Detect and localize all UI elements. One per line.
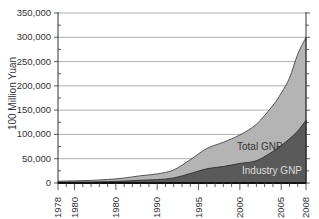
y-tick-label: 150,000	[1, 104, 51, 115]
y-tick-label: 50,000	[1, 153, 51, 164]
x-tick-label: 1978	[52, 197, 63, 218]
y-tick-label: 0	[1, 177, 51, 188]
x-tick-label: 2008	[300, 197, 311, 218]
x-tick-label: 1995	[193, 197, 204, 218]
y-tick-label: 300,000	[1, 31, 51, 42]
y-tick-label: 100,000	[1, 128, 51, 139]
x-tick-label: 1990	[151, 197, 162, 218]
x-tick-label: 1980	[69, 197, 80, 218]
x-tick-label: 2000	[234, 197, 245, 218]
x-tick-label: 2005	[275, 197, 286, 218]
total-gnp-label: Total GNP	[237, 141, 283, 152]
industry-gnp-label: Industry GNP	[242, 165, 302, 176]
y-tick-label: 200,000	[1, 80, 51, 91]
x-tick-label: 1980	[110, 197, 121, 218]
y-tick-label: 350,000	[1, 7, 51, 18]
y-tick-label: 250,000	[1, 56, 51, 67]
